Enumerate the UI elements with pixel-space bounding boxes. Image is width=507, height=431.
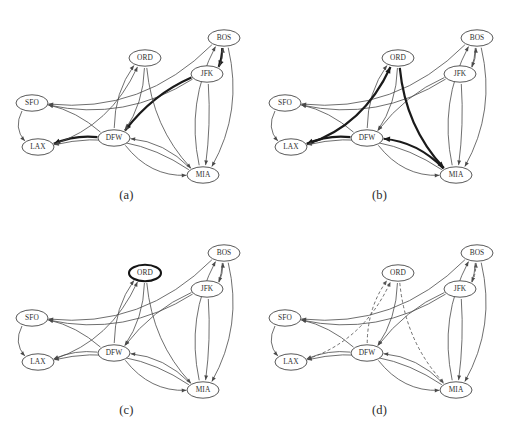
edge-dfw-to-mia: DFW to MIA [125,145,186,175]
node-label-ord: ORD [390,53,406,62]
node-ord[interactable]: ORD [382,50,414,66]
node-label-mia: MIA [449,170,464,179]
edge-ord-to-mia: ORD to MIA [400,283,444,383]
node-sfo[interactable]: SFO [16,95,48,111]
graph-svg-b: BOS to SFOBOS to JFKBOS to MIAJFK to BOS… [253,0,506,215]
node-lax[interactable]: LAX [275,354,307,370]
edge-mia-to-bos: MIA to BOS [195,262,215,381]
node-lax[interactable]: LAX [275,139,307,155]
edge-ord-to-dfw: ORD to DFW [378,68,398,130]
node-ord[interactable]: ORD [129,50,161,66]
node-bos[interactable]: BOS [461,30,493,46]
edge-ord-to-mia: ORD to MIA [147,283,191,383]
edge-ord-to-mia: ORD to MIA [400,68,444,168]
panel-caption-a: (a) [0,188,253,203]
edge-sfo-to-lax: SFO to LAX [18,111,25,141]
arrowhead [182,389,187,393]
node-label-mia: MIA [449,385,464,394]
node-ord[interactable]: ORD [129,265,161,281]
node-jfk[interactable]: JFK [191,66,223,82]
node-label-lax: LAX [283,357,299,366]
edge-mia-to-bos: MIA to BOS [448,262,468,381]
arrowhead [301,104,306,108]
edge-ord-to-dfw: ORD to DFW [378,283,398,345]
arrowhead [130,65,134,70]
node-label-sfo: SFO [278,313,292,322]
node-dfw[interactable]: DFW [351,345,383,361]
graph-svg-a: BOS to SFOBOS to JFKBOS to MIAJFK to BOS… [0,0,253,215]
node-bos[interactable]: BOS [461,245,493,261]
node-mia[interactable]: MIA [187,382,219,398]
node-label-dfw: DFW [106,348,123,357]
node-label-bos: BOS [217,33,232,42]
node-label-jfk: JFK [454,69,467,78]
node-bos[interactable]: BOS [208,245,240,261]
node-dfw[interactable]: DFW [98,130,130,146]
panel-caption-b: (b) [253,188,506,203]
edge-ord-to-dfw: ORD to DFW [125,283,145,345]
node-label-jfk: JFK [201,69,214,78]
graph-panel-d: BOS to SFOBOS to JFKBOS to MIAJFK to BOS… [253,215,506,430]
graph-svg-d: BOS to SFOBOS to JFKBOS to MIAJFK to BOS… [253,215,506,430]
node-sfo[interactable]: SFO [16,310,48,326]
node-lax[interactable]: LAX [22,139,54,155]
graph-svg-c: BOS to SFOBOS to JFKBOS to MIAJFK to BOS… [0,215,253,430]
arrowhead [435,174,440,178]
edge-sfo-to-lax: SFO to LAX [271,326,278,356]
edge-dfw-to-ord: DFW to ORD [367,65,387,128]
arrowhead [48,319,53,323]
arrowhead [439,378,444,383]
edge-bos-to-mia: BOS to MIA [212,263,233,382]
node-mia[interactable]: MIA [440,167,472,183]
node-label-dfw: DFW [359,133,376,142]
node-sfo[interactable]: SFO [269,310,301,326]
arrowhead [474,263,478,268]
node-lax[interactable]: LAX [22,354,54,370]
node-jfk[interactable]: JFK [444,66,476,82]
arrowhead [182,174,187,178]
node-label-sfo: SFO [278,98,292,107]
edge-mia-to-bos: MIA to BOS [448,47,468,166]
node-label-lax: LAX [283,142,299,151]
node-jfk[interactable]: JFK [191,281,223,297]
edge-ord-to-mia: ORD to MIA [147,68,191,168]
node-label-sfo: SFO [25,313,39,322]
arrowhead [383,65,387,70]
edge-dfw-to-ord: DFW to ORD [114,65,134,128]
graph-panel-b: BOS to SFOBOS to JFKBOS to MIAJFK to BOS… [253,0,506,215]
node-mia[interactable]: MIA [187,167,219,183]
node-label-ord: ORD [137,268,153,277]
panel-caption-c: (c) [0,403,253,418]
node-mia[interactable]: MIA [440,382,472,398]
node-ord[interactable]: ORD [382,265,414,281]
node-dfw[interactable]: DFW [98,345,130,361]
node-dfw[interactable]: DFW [351,130,383,146]
node-label-ord: ORD [390,268,406,277]
edge-ord-to-dfw: ORD to DFW [125,68,145,130]
node-label-jfk: JFK [201,284,214,293]
node-jfk[interactable]: JFK [444,281,476,297]
edge-bos-to-mia: BOS to MIA [465,48,486,167]
arrowhead [221,263,225,268]
node-label-ord: ORD [137,53,153,62]
edge-bos-to-sfo: BOS to SFO [49,45,212,105]
arrowhead [204,160,208,165]
graph-panel-c: BOS to SFOBOS to JFKBOS to MIAJFK to BOS… [0,215,253,430]
arrowhead [301,319,306,323]
node-sfo[interactable]: SFO [269,95,301,111]
panel-caption-d: (d) [253,403,506,418]
arrowhead [273,351,278,356]
node-bos[interactable]: BOS [208,30,240,46]
arrowhead [204,375,208,380]
node-label-lax: LAX [30,357,46,366]
edge-dfw-to-ord: DFW to ORD [367,280,387,343]
arrowhead [457,160,461,165]
edge-bos-to-mia: BOS to MIA [465,263,486,382]
edge-mia-to-bos: MIA to BOS [195,47,215,166]
edge-dfw-to-mia: DFW to MIA [378,360,439,390]
edge-sfo-to-lax: SFO to LAX [271,111,278,141]
node-label-mia: MIA [196,385,211,394]
arrowhead [273,136,278,141]
edge-dfw-to-ord: DFW to ORD [114,280,134,343]
arrowhead [435,389,440,393]
